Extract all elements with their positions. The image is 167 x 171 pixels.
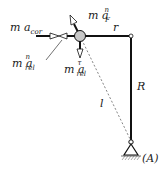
- label-R: R: [136, 80, 145, 93]
- leader-rel-n: [46, 40, 62, 60]
- ground-hatch: [122, 156, 140, 160]
- label-m-a-F-n: m anF: [88, 6, 111, 24]
- label-l: l: [100, 97, 104, 110]
- label-m-a-rel-t: m aτrel: [64, 59, 86, 78]
- arrow-rel-t-head: [77, 49, 83, 58]
- support-triangle: [124, 144, 138, 155]
- arrow-F-n-head: [70, 15, 77, 25]
- particle-ball: [75, 31, 86, 42]
- arrow-cor-head: [50, 33, 59, 39]
- arrow-rel-n-head: [59, 33, 67, 39]
- line-l: [80, 36, 131, 141]
- label-m-a-cor: m acor: [10, 21, 43, 36]
- label-r: r: [113, 21, 119, 34]
- label-m-a-rel-n: m anrel: [12, 53, 35, 72]
- corner-joint: [129, 34, 133, 38]
- mechanics-diagram: m acor m anrel m anF m aτrel r R l (A): [0, 0, 167, 171]
- label-A: (A): [142, 152, 159, 165]
